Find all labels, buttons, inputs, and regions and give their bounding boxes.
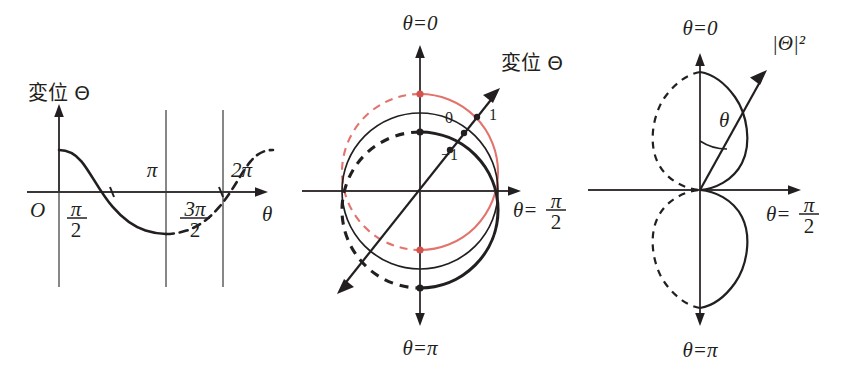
figure-canvas: 変位 Θ O π 2 π 3π 2 2π θ xyxy=(0,0,858,376)
right-top-label: θ=0 xyxy=(683,16,718,40)
right-probability-ray xyxy=(700,80,761,190)
right-vertical-axis-arrow-bottom xyxy=(695,313,705,326)
lobe-upper-dashed-left xyxy=(653,72,700,190)
right-right-label: θ= π 2 xyxy=(766,193,819,238)
right-ray-arrowhead xyxy=(750,70,767,85)
right-vertical-axis-arrow-top xyxy=(695,53,705,66)
lobe-lower-dashed-left xyxy=(653,190,700,308)
right-horizontal-axis-arrow xyxy=(788,185,801,195)
right-angle-label: θ xyxy=(719,108,729,132)
right-right-label-lead: θ= xyxy=(766,202,791,226)
lobe-lower-solid-right xyxy=(700,190,747,308)
right-right-label-den: 2 xyxy=(804,214,815,238)
right-bottom-label: θ=π xyxy=(682,338,717,362)
right-ray-label: |Θ|² xyxy=(772,31,806,55)
panel-polar-probability: θ=0 θ=π θ= π 2 |Θ|² θ xyxy=(0,0,858,376)
